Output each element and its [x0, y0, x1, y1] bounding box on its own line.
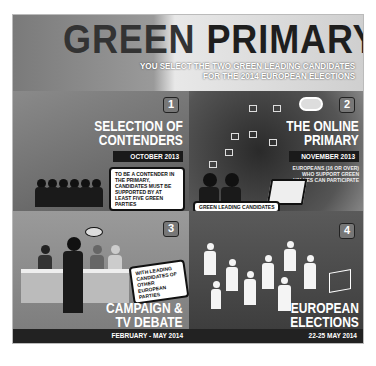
- step-number: 2: [339, 97, 355, 113]
- step-2-panel: 2 THE ONLINEPRIMARY NOVEMBER 2013 EUROPE…: [189, 91, 364, 211]
- step-number: 1: [163, 97, 179, 113]
- step-1-panel: 1 SELECTION OFCONTENDERS OCTOBER 2013 TO…: [13, 91, 189, 211]
- page-title: GREEN PRIMARY: [63, 17, 364, 62]
- step-number: 3: [163, 221, 179, 237]
- step-number: 4: [339, 223, 355, 239]
- step-date: OCTOBER 2013: [113, 151, 183, 162]
- speech-bubble-icon: [85, 227, 103, 237]
- step-title: SELECTION OFCONTENDERS: [94, 119, 183, 147]
- step-note: TO BE A CONTENDER IN THE PRIMARY, CANDID…: [109, 167, 185, 211]
- step-note: WITH LEADING CANDIDATES OF OTHER EUROPEA…: [129, 259, 189, 304]
- mouse-icon: [299, 97, 323, 111]
- ballot-box-icon: [329, 269, 351, 293]
- step-4-date: 22-25 MAY 2014: [309, 329, 357, 343]
- step-4-panel: 4 EUROPEANELECTIONS: [189, 211, 364, 344]
- step-3-date: FEBRUARY - MAY 2014: [111, 329, 183, 343]
- step-title: CAMPAIGN &TV DEBATE: [107, 301, 183, 329]
- candidates-label: GREEN LEADING CANDIDATES: [193, 201, 280, 211]
- step-3-panel: 3 WITH LEADING CANDIDATES OF OTHER EUROP…: [13, 211, 189, 344]
- step-title: EUROPEANELECTIONS: [290, 301, 359, 329]
- header-banner: GREEN PRIMARY YOU SELECT THE TWO GREEN L…: [13, 15, 364, 91]
- step-date: NOVEMBER 2013: [289, 151, 359, 162]
- subtitle: YOU SELECT THE TWO GREEN LEADING CANDIDA…: [140, 61, 355, 81]
- step-title: THE ONLINEPRIMARY: [286, 119, 359, 147]
- infographic: GREEN PRIMARY YOU SELECT THE TWO GREEN L…: [12, 14, 364, 344]
- timeline-footer: FEBRUARY - MAY 2014 22-25 MAY 2014: [13, 329, 364, 343]
